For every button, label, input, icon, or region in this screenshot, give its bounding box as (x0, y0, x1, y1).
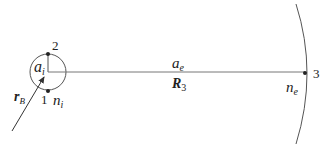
inner-medium-label: ni (53, 92, 64, 110)
point-2-label: 2 (52, 38, 59, 53)
point-2-dot (46, 52, 50, 56)
position-vector-label: rB (14, 89, 25, 106)
outer-medium-label: ne (286, 79, 299, 97)
position-vector-arrow (12, 77, 44, 131)
point-1-label: 1 (41, 92, 48, 107)
connector-top-label: ae (172, 55, 185, 73)
connector-bottom-label: R3 (171, 76, 186, 93)
point-3-dot (303, 71, 307, 75)
optics-diagram: 2 1 3 ai ni ae R3 ne rB (0, 0, 334, 148)
inner-radius-label: ai (34, 58, 45, 77)
point-3-label: 3 (313, 66, 320, 81)
